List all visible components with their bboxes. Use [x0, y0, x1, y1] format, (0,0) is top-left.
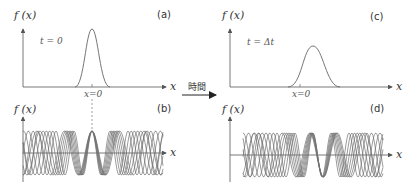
time-label: t = Δt — [247, 37, 274, 47]
x-axis-label: x — [396, 148, 403, 161]
y-axis-label: f (x) — [13, 103, 36, 116]
y-axis-label: f (x) — [221, 9, 244, 22]
time-arrow-label: 時間 — [188, 82, 206, 92]
panel-tag: (d) — [370, 103, 384, 114]
gaussian-pulse — [75, 29, 110, 87]
y-axis-label: f (x) — [221, 103, 244, 116]
wave-packet-diagram: f (x) (a) x t = 0 x=0 f (x) (b) x 時間 f (… — [0, 0, 419, 191]
panel-a: f (x) (a) x t = 0 x=0 — [13, 9, 177, 99]
origin-label: x=0 — [292, 89, 311, 99]
gaussian-pulse — [288, 46, 340, 87]
x-axis-label: x — [170, 80, 177, 93]
time-arrow: 時間 — [182, 82, 216, 95]
panel-d: f (x) (d) x — [221, 103, 403, 182]
x-axis-label: x — [396, 80, 403, 93]
panel-tag: (c) — [370, 11, 383, 22]
y-axis-label: f (x) — [13, 9, 36, 22]
time-label: t = 0 — [40, 36, 63, 46]
x-axis-label: x — [170, 146, 177, 159]
panel-b: f (x) (b) x — [13, 99, 177, 182]
panel-c: f (x) (c) x t = Δt x=0 — [221, 9, 403, 99]
origin-label: x=0 — [84, 89, 103, 99]
panel-tag: (b) — [157, 103, 171, 114]
panel-tag: (a) — [157, 9, 171, 20]
